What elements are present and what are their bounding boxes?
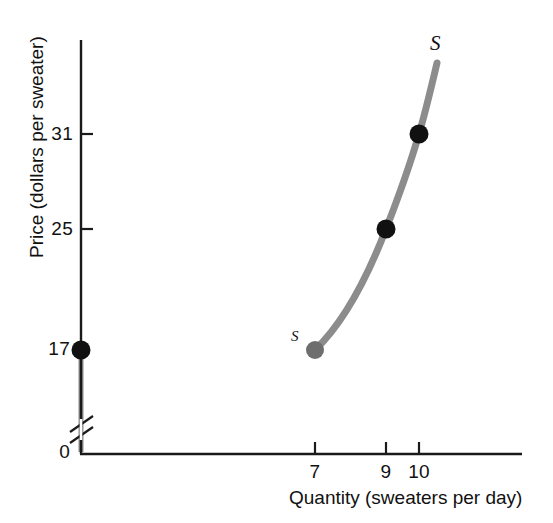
x-tick-label-10: 10 — [399, 461, 439, 483]
supply-curve-label-top: S — [430, 31, 441, 56]
x-axis-title: Quantity (sweaters per day) — [289, 487, 522, 509]
supply-curve — [315, 63, 437, 350]
data-point-price-17-on-axis — [72, 341, 91, 360]
data-point-q9-p25 — [377, 220, 396, 239]
y-axis-title: Price (dollars per sweater) — [26, 36, 48, 258]
data-point-q7-p17 — [306, 341, 324, 359]
y-tick-label-17: 17 — [28, 338, 70, 360]
data-point-q10-p31 — [410, 125, 429, 144]
supply-curve-label-bottom: S — [291, 328, 299, 345]
y-tick-label-0: 0 — [42, 441, 70, 463]
supply-curve-chart: 31 25 17 0 7 9 10 Price (dollars per swe… — [0, 0, 553, 523]
x-tick-label-7: 7 — [295, 461, 335, 483]
chart-canvas — [0, 0, 553, 523]
